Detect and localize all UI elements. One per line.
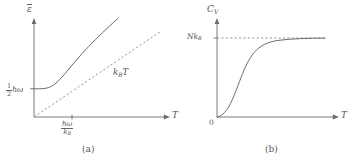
panel-b-origin-label: 0 [209,119,214,127]
panel-b-y-axis-arrow [215,18,220,24]
panel-a-plot [0,0,181,166]
panel-a-x-tick-label: ℏω kB [61,121,73,137]
panel-b-caption: (b) [265,145,278,154]
panel-a-y-axis-arrow [32,18,37,24]
panel-b-plot [182,0,363,166]
panel-b: CV T NkB 0 (b) [182,0,363,166]
panel-a: ε T 12ℏω ℏω kB kBT (a) [0,0,181,166]
panel-b-y-axis-label: CV [207,5,218,15]
panel-a-y-axis-label: ε [27,5,32,14]
panel-b-x-axis-label: T [341,111,347,120]
panel-a-curve-annotation: kBT [113,68,128,78]
panel-b-heat-capacity-curve [217,38,325,117]
panel-a-x-axis-arrow [164,115,170,120]
panel-a-energy-curve [34,18,118,89]
panel-a-caption: (a) [82,145,94,154]
panel-b-x-axis-arrow [333,115,339,120]
figure-two-panel: ε T 12ℏω ℏω kB kBT (a) [0,0,363,166]
panel-a-x-axis-label: T [172,111,178,120]
panel-a-y-tick-label: 12ℏω [6,83,23,98]
panel-b-y-tick-label: NkB [187,33,202,42]
panel-a-asymptote-line [34,32,160,117]
